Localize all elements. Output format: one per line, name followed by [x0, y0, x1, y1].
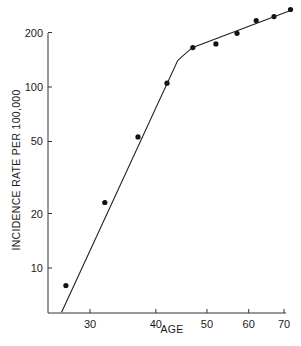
x-tick-label: 60	[243, 318, 255, 330]
chart: 1020501002003040506070 AGE INCIDENCE RAT…	[0, 0, 301, 346]
fitted-curve	[62, 10, 291, 312]
x-axis-label: AGE	[160, 323, 183, 335]
data-point	[63, 283, 68, 288]
y-tick-label: 50	[31, 135, 43, 147]
x-tick-label: 30	[84, 318, 96, 330]
data-point	[102, 200, 107, 205]
y-tick-label: 100	[25, 81, 43, 93]
data-point	[135, 134, 140, 139]
x-tick-label: 70	[278, 318, 290, 330]
plot-area	[62, 7, 294, 312]
y-axis-label: INCIDENCE RATE PER 100,000	[10, 89, 22, 250]
y-tick-label: 200	[25, 27, 43, 39]
data-point	[213, 41, 218, 46]
y-tick-label: 20	[31, 208, 43, 220]
x-tick-label: 50	[201, 318, 213, 330]
y-tick-label: 10	[31, 262, 43, 274]
